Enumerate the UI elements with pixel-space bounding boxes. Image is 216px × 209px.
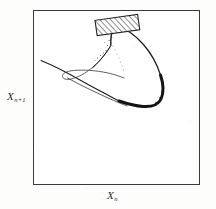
y-axis-label-subscript: n+1 bbox=[14, 96, 26, 103]
x-axis-label-subscript: n bbox=[114, 195, 117, 202]
attractor-dense-hook bbox=[119, 75, 163, 107]
hatched-box bbox=[95, 14, 140, 35]
x-axis-label-base: X bbox=[107, 189, 114, 201]
y-axis-label: Xn+1 bbox=[7, 91, 25, 102]
attractor-inner-fold bbox=[62, 46, 124, 80]
attractor-outer-branch bbox=[41, 61, 119, 102]
attractor-right-branch bbox=[118, 26, 161, 75]
attractor-fold-accent bbox=[93, 47, 110, 68]
figure-canvas: Xn+1 Xn bbox=[0, 0, 216, 209]
y-axis-label-base: X bbox=[7, 90, 14, 102]
attractor-speckle-cloud bbox=[95, 37, 124, 70]
x-axis-label: Xn bbox=[107, 190, 117, 201]
attractor-drawing bbox=[0, 0, 216, 209]
